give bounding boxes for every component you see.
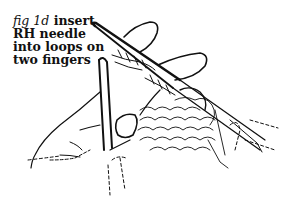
yarn-loops-icon [112,50,175,95]
hand-icon [31,90,160,168]
second-needle-icon [99,58,112,150]
knitting-illustration [0,0,296,221]
figure-1d: fig 1d insert RH needle into loops on tw… [0,0,296,221]
hidden-outline-icon [28,120,278,195]
